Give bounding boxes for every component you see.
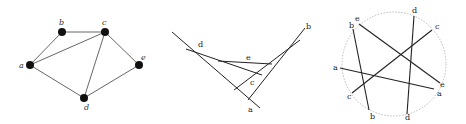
edge-c-e [105, 32, 139, 65]
chord-label-c-top: c [435, 22, 440, 31]
chord-label-e-right: e [440, 80, 445, 89]
node-b [58, 28, 66, 36]
node-label-c: c [102, 18, 107, 27]
chord-d [407, 16, 414, 114]
node-label-a: a [19, 61, 24, 70]
node-label-d: d [84, 103, 89, 112]
segment-label-d: d [198, 40, 203, 49]
edge-c-d [84, 32, 105, 98]
segment-label-c: c [250, 78, 255, 87]
segment-label-a: a [248, 105, 253, 114]
chord-b [353, 29, 369, 110]
node-a [26, 61, 34, 69]
segment-label-b: b [306, 22, 311, 31]
figure: a b c d e d e c a b e b d c a e a c b d [0, 0, 466, 124]
chord-label-a-left: a [333, 63, 338, 72]
node-e [135, 61, 143, 69]
chord-label-b-bottom: b [370, 112, 375, 121]
node-d [80, 94, 88, 102]
edge-a-b [30, 32, 62, 65]
graph-panel: a b c d e [19, 18, 146, 112]
segment-label-e: e [246, 53, 251, 62]
chord-label-a-right: a [437, 89, 442, 98]
chord-label-b-top: b [349, 21, 354, 30]
chord-label-e-top: e [355, 14, 360, 23]
chord-a [340, 68, 434, 89]
node-label-e: e [141, 53, 146, 62]
node-c [101, 28, 109, 36]
node-label-b: b [59, 18, 64, 27]
chord-label-d-bottom: d [405, 113, 410, 122]
edge-a-c [30, 32, 105, 65]
segments-panel: d e c a b [172, 22, 311, 114]
edge-d-e [84, 65, 139, 98]
chord-label-d-top: d [412, 6, 417, 15]
dotted-circle [342, 12, 446, 116]
segment-b [248, 28, 305, 100]
chord-label-c-bottom: c [347, 92, 352, 101]
edge-a-d [30, 65, 84, 98]
chord-c [352, 30, 432, 93]
circle-panel: e b d c a e a c b d [333, 6, 446, 122]
